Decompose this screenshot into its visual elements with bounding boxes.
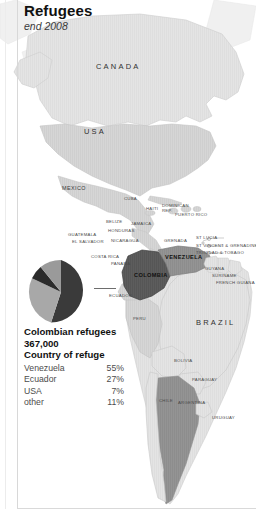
legend-heading-refuge: Country of refuge (24, 349, 142, 361)
map-label-colombia: COLOMBIA (134, 272, 168, 278)
legend-value-ecuador: 27% (90, 374, 132, 385)
map-label-costa-rica: COSTA RICA (91, 254, 119, 259)
legend-value-venezuela: 55% (90, 363, 132, 374)
map-label-trinidad-tobago: TRINIDAD & TOBAGO (196, 250, 244, 255)
map-label-usa: USA (84, 127, 106, 136)
legend-table: Venezuela 55% Ecuador 27% USA 7% other 1… (24, 363, 132, 409)
map-label-dominican-republic-rep: REP. (162, 208, 172, 213)
map-label-argentina: ARGENTINA (178, 400, 205, 405)
map-label-chile: CHILE (159, 398, 173, 403)
table-row: Venezuela 55% (24, 363, 132, 374)
infographic-page: CANADA USA BRAZIL MEXICO CUBA HAITI DOMI… (0, 0, 256, 516)
map-label-uruguay: URUGUAY (212, 415, 235, 420)
map-label-venezuela: VENEZUELA (165, 254, 202, 260)
legend-label-other: other (24, 397, 90, 408)
legend-value-other: 11% (90, 397, 132, 408)
map-label-honduras: HONDURAS (108, 228, 135, 233)
page-subtitle: end 2008 (24, 20, 92, 33)
legend-label-usa: USA (24, 386, 90, 397)
legend-label-venezuela: Venezuela (24, 363, 90, 374)
legend-label-ecuador: Ecuador (24, 374, 90, 385)
map-label-paraguay: PARAGUAY (192, 377, 217, 382)
map-label-brazil: BRAZIL (196, 318, 235, 327)
map-label-nicaragua: NICARAGUA (111, 238, 139, 243)
map-label-guatemala: GUATEMALA (68, 232, 96, 237)
pie-leader-line-to-ecuador (94, 288, 116, 289)
legend-heading-title: Colombian refugees (24, 326, 142, 338)
pie-chart (27, 258, 95, 326)
table-row: Ecuador 27% (24, 374, 132, 385)
table-row: USA 7% (24, 386, 132, 397)
map-label-grenada: GRENADA (164, 238, 187, 243)
map-label-mexico: MEXICO (62, 185, 86, 191)
map-label-panama: PANAMA (111, 261, 130, 266)
map-label-cuba: CUBA (124, 196, 137, 201)
map-label-bolivia: BOLIVIA (174, 358, 192, 363)
map-label-haiti: HAITI (146, 206, 158, 211)
map-label-canada: CANADA (96, 62, 140, 71)
map-label-st-vincent-grenadines: ST VINCENT & GRENADINES (196, 243, 256, 248)
map-label-puerto-rico: PUERTO RICO (175, 212, 207, 217)
map-label-el-salvador: EL SALVADOR (72, 239, 104, 244)
map-label-st-lucia: ST LUCIA (196, 235, 217, 240)
map-label-peru: PERU (133, 316, 146, 321)
map-label-suriname: SURINAME (212, 273, 237, 278)
map-label-guyana: GUYANA (205, 266, 224, 271)
map-label-belize: BELIZE (106, 219, 122, 224)
legend-value-usa: 7% (90, 386, 132, 397)
title-block: Refugees end 2008 (24, 2, 92, 33)
page-edge-rule (5, 0, 6, 509)
map-label-french-guiana: FRENCH GUIANA (216, 280, 255, 285)
table-row: other 11% (24, 397, 132, 408)
page-title: Refugees (24, 2, 92, 19)
map-label-ecuador: ECUADOR (109, 293, 132, 298)
map-label-jamaica: JAMAICA (131, 221, 151, 226)
content-bottom-rule (17, 508, 256, 509)
legend-heading-total: 367,000 (24, 338, 142, 350)
content-left-rule (17, 0, 18, 509)
chart-legend: Colombian refugees 367,000 Country of re… (24, 326, 142, 408)
